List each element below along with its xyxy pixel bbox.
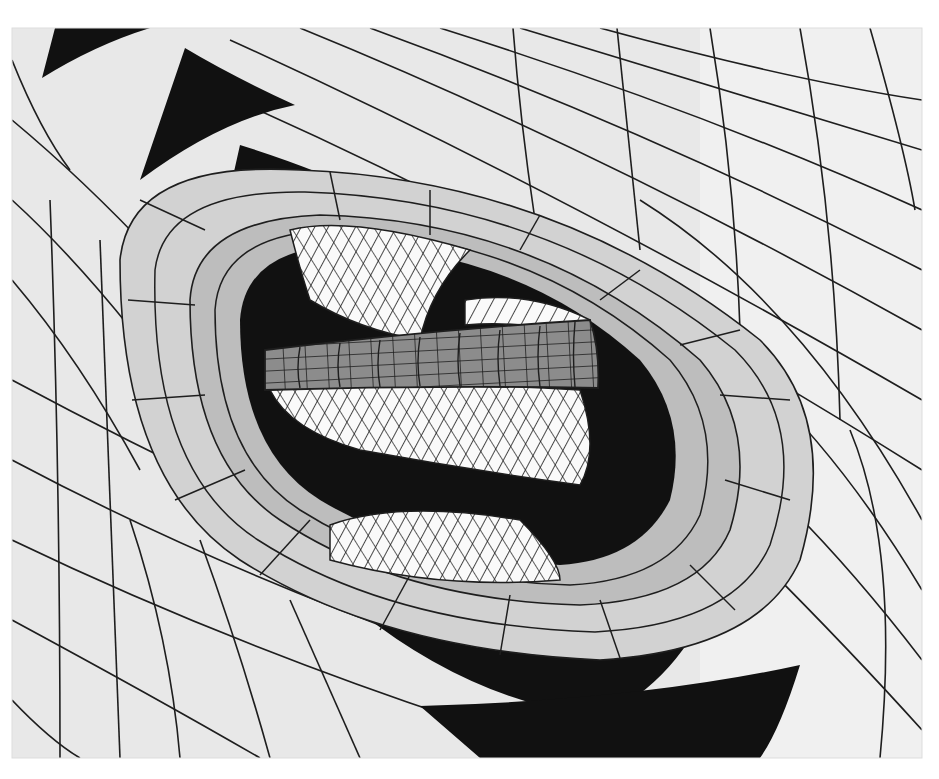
surface-illustration — [0, 0, 939, 779]
figure-frame — [12, 28, 922, 758]
wireframe-torus-figure — [0, 0, 939, 779]
